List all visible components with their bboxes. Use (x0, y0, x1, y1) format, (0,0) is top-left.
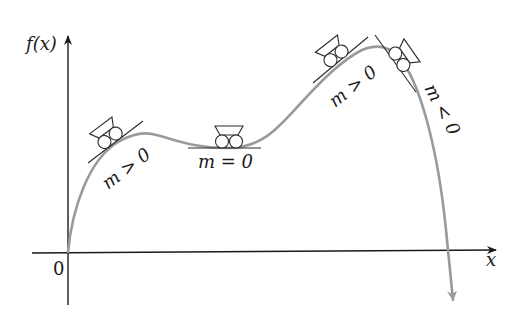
cart-icon (386, 39, 420, 75)
cart-icon (90, 117, 126, 151)
slope-label: m > 0 (325, 61, 381, 111)
cart-icon (315, 35, 351, 70)
y-axis-label: f(x) (24, 33, 57, 54)
diagram-canvas: f(x) 0 x m > 0 m = 0 m > 0 m < 0 (0, 0, 519, 318)
origin-label: 0 (53, 258, 64, 279)
slope-label: m < 0 (420, 80, 464, 138)
x-axis-label: x (486, 249, 496, 270)
x-axis (32, 250, 496, 253)
cart-icon (215, 126, 243, 148)
cart-1: m > 0 (88, 117, 154, 193)
slope-label: m = 0 (198, 151, 253, 172)
slope-diagram: f(x) 0 x m > 0 m = 0 m > 0 m < 0 (0, 0, 519, 318)
